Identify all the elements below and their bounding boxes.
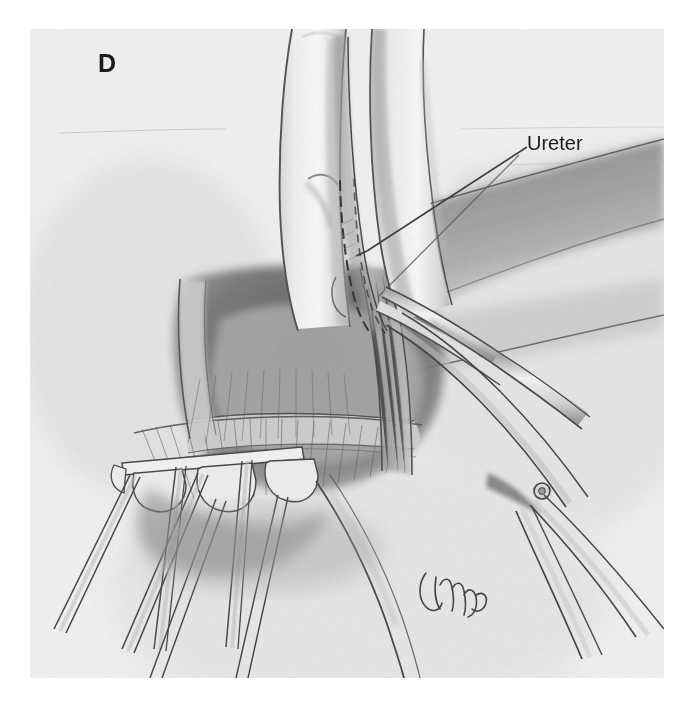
paper-grain: [30, 29, 664, 678]
surgical-illustration: [30, 29, 664, 678]
illustration-plate: D Ureter: [30, 29, 664, 678]
figure-root: D Ureter: [0, 0, 692, 703]
annotation-label-ureter: Ureter: [527, 133, 583, 153]
panel-letter: D: [98, 51, 117, 76]
